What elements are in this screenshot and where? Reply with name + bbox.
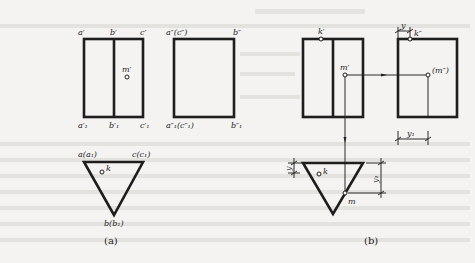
label-k-double-prime: k″ (414, 29, 422, 38)
label-k: k (323, 167, 328, 176)
label-m-prime: m′ (122, 65, 132, 74)
label-b1-double-prime: b″₁ (231, 121, 242, 130)
label-b1-prime: b′₁ (109, 121, 119, 130)
label-a1-c1-double-prime: a″₁(c″₁) (166, 121, 194, 130)
caption-b: (b) (364, 235, 378, 246)
label-a-a1: a(a₁) (78, 150, 97, 159)
label-m: m (348, 197, 356, 206)
figure-a: a′ b′ c′ a′₁ b′₁ c′₁ m′ a″(c″) b″ a″₁(c″… (78, 28, 242, 246)
label-b-b1: b(b₁) (104, 219, 124, 228)
arrow-right-icon (381, 74, 387, 77)
dimension-y1-bottom: y₁ (395, 129, 431, 145)
label-a-c-double-prime: a″(c″) (166, 28, 187, 37)
point-k (317, 172, 321, 176)
point-m-prime (125, 75, 129, 79)
label-a-prime: a′ (78, 28, 85, 37)
figure-b-top-view: k m y y₁ (284, 158, 386, 214)
point-k-prime (319, 37, 323, 41)
label-b-double-prime: b″ (233, 28, 241, 37)
label-dim-y-left: y (284, 166, 293, 172)
figure-a-side-view: a″(c″) b″ a″₁(c″₁) b″₁ (166, 28, 242, 130)
dimension-y-left: y (284, 158, 302, 178)
figure-a-front-view: a′ b′ c′ a′₁ b′₁ c′₁ m′ (78, 28, 150, 130)
point-k (100, 170, 104, 174)
label-k: k (106, 164, 111, 173)
label-b-prime: b′ (110, 28, 117, 37)
point-m-double-prime (426, 73, 430, 77)
figure-b: k′ m′ k″ (m″) y (284, 21, 457, 246)
label-dim-y1-bottom: y₁ (406, 129, 415, 138)
label-m-prime: m′ (340, 63, 350, 72)
figure-b-side-view: k″ (m″) y y₁ (395, 21, 457, 145)
side-view-prism-outline (174, 39, 234, 117)
point-m (343, 191, 347, 195)
top-view-triangle (84, 162, 143, 215)
label-dim-y-top: y (400, 21, 406, 30)
label-c1-prime: c′₁ (140, 121, 150, 130)
top-view-triangle (303, 163, 363, 214)
projection-figure: a′ b′ c′ a′₁ b′₁ c′₁ m′ a″(c″) b″ a″₁(c″… (0, 0, 475, 263)
figure-a-top-view: a(a₁) c(c₁) b(b₁) k (78, 150, 150, 228)
dimension-y-top: y (395, 21, 413, 39)
arrow-down-icon (344, 137, 347, 143)
label-dim-y1-right: y₁ (371, 175, 380, 184)
label-c-prime: c′ (140, 28, 146, 37)
caption-a: (a) (104, 235, 118, 246)
label-a1-prime: a′₁ (78, 121, 88, 130)
label-k-prime: k′ (318, 27, 325, 36)
label-c-c1: c(c₁) (132, 150, 150, 159)
point-m-prime (343, 73, 347, 77)
label-m-double-prime: (m″) (432, 66, 449, 75)
figure-b-front-view: k′ m′ (303, 27, 363, 117)
point-k-double-prime (408, 37, 412, 41)
